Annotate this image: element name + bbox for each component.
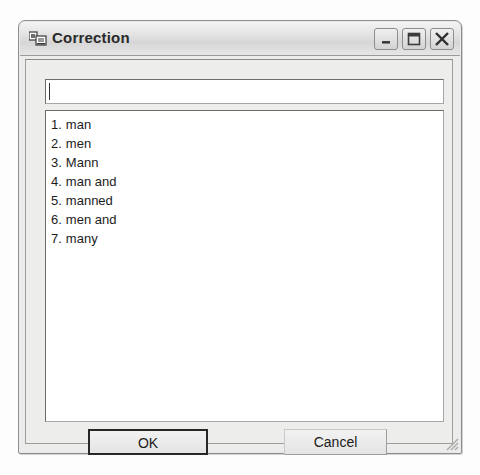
list-item-label: men [66, 136, 91, 151]
ok-button[interactable]: OK [88, 429, 208, 455]
list-item-number: 7. [51, 231, 62, 246]
dialog-client-area: 1.man 2.men 3.Mann 4.man and 5.manned 6.… [20, 56, 460, 452]
list-item[interactable]: 4.man and [46, 172, 443, 191]
list-item[interactable]: 2.men [46, 134, 443, 153]
list-item-number: 5. [51, 193, 62, 208]
close-icon[interactable] [430, 28, 454, 50]
dialog-inner-panel: 1.man 2.men 3.Mann 4.man and 5.manned 6.… [25, 59, 453, 444]
suggestion-list[interactable]: 1.man 2.men 3.Mann 4.man and 5.manned 6.… [45, 110, 444, 422]
list-item-label: Mann [66, 155, 99, 170]
list-item-number: 3. [51, 155, 62, 170]
computer-window-icon [29, 31, 47, 48]
list-item[interactable]: 3.Mann [46, 153, 443, 172]
list-item[interactable]: 5.manned [46, 191, 443, 210]
text-caret [49, 83, 50, 100]
list-item[interactable]: 1.man [46, 115, 443, 134]
list-item-label: man and [66, 174, 117, 189]
list-item[interactable]: 7.many [46, 229, 443, 248]
title-bar[interactable]: Correction [20, 22, 460, 56]
list-item-number: 6. [51, 212, 62, 227]
correction-dialog-window: Correction [18, 20, 462, 454]
cancel-button[interactable]: Cancel [284, 429, 387, 455]
list-item-number: 1. [51, 117, 62, 132]
list-item[interactable]: 6.men and [46, 210, 443, 229]
list-item-label: man [66, 117, 91, 132]
list-item-label: men and [66, 212, 117, 227]
resize-grip-icon[interactable] [443, 435, 459, 451]
minimize-button[interactable] [374, 28, 398, 50]
list-item-number: 2. [51, 136, 62, 151]
list-item-label: manned [66, 193, 113, 208]
list-item-label: many [66, 231, 98, 246]
maximize-button[interactable] [402, 28, 426, 50]
list-item-number: 4. [51, 174, 62, 189]
correction-input[interactable] [45, 79, 444, 104]
window-title: Correction [52, 29, 130, 46]
